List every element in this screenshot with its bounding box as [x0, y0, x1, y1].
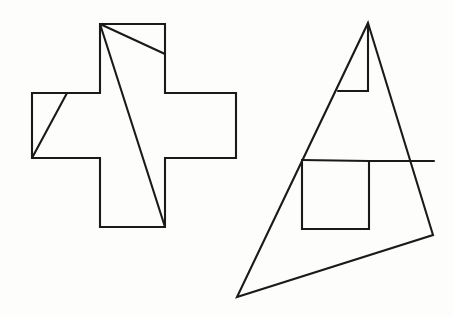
cross-cut-line-top: [100, 24, 165, 54]
greek-cross-outline: [32, 24, 236, 227]
cross-cut-line-left: [32, 93, 67, 158]
cross-cut-line-long: [100, 24, 165, 227]
geometry-figure: [0, 0, 453, 317]
triangle-inner-step-top-edge: [302, 160, 369, 161]
figure-canvas: [0, 0, 453, 317]
